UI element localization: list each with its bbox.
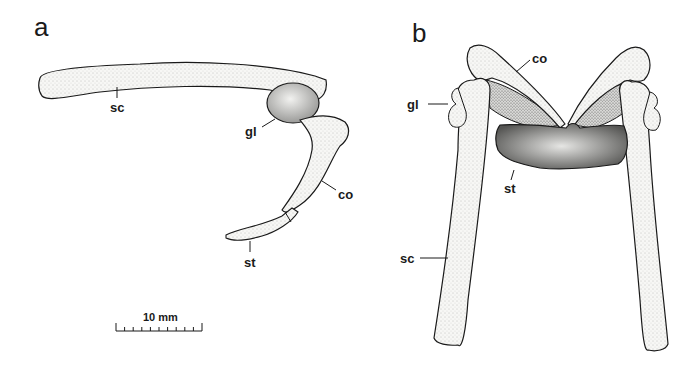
label-b-sternum: st xyxy=(504,182,516,195)
panel-label-a: a xyxy=(34,14,48,40)
label-b-coracoid: co xyxy=(532,52,547,65)
panel-label-b: b xyxy=(412,20,426,46)
label-b-glenoid: gl xyxy=(407,98,419,111)
panel-b-drawing xyxy=(434,45,668,351)
sternum-bone xyxy=(226,208,298,240)
panel-a-drawing xyxy=(39,63,349,241)
label-a-coracoid: co xyxy=(338,188,353,201)
figure-canvas xyxy=(0,0,687,372)
label-a-scapula: sc xyxy=(110,101,124,114)
label-b-scapula: sc xyxy=(400,252,414,265)
scale-bar xyxy=(116,323,202,331)
sternum-b xyxy=(496,124,628,169)
label-a-glenoid: gl xyxy=(245,125,257,138)
scale-bar-label: 10 mm xyxy=(143,311,178,323)
label-a-sternum: st xyxy=(244,256,256,269)
